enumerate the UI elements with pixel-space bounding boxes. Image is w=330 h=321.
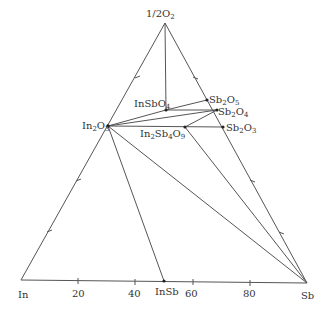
label-sb: Sb [301,290,314,301]
label-in2sb4o9: In2Sb4O9 [140,128,185,141]
tie-lines [108,23,307,283]
label-in: In [18,289,29,300]
label-insbo4: InSbO4 [134,98,171,111]
label-sb2o4: Sb2O4 [218,106,249,119]
tick-label-20: 20 [72,288,85,299]
label-sb2o3: Sb2O3 [226,122,256,135]
tick-label-40: 40 [128,288,141,299]
triangle-outline [21,23,307,283]
label-in2o3: In2O3 [82,120,110,133]
tick-label-80: 80 [243,288,256,299]
ternary-diagram: 1/2O2 In Sb InSb 20 40 60 80 In2O3 InSbO… [0,0,330,321]
point-sb2o3 [221,125,224,128]
point-in2sb4o9 [183,125,186,128]
label-oxygen: 1/2O2 [146,8,175,21]
label-insb: InSb [155,286,179,297]
point-insb [162,279,165,282]
tick-label-60: 60 [185,288,198,299]
